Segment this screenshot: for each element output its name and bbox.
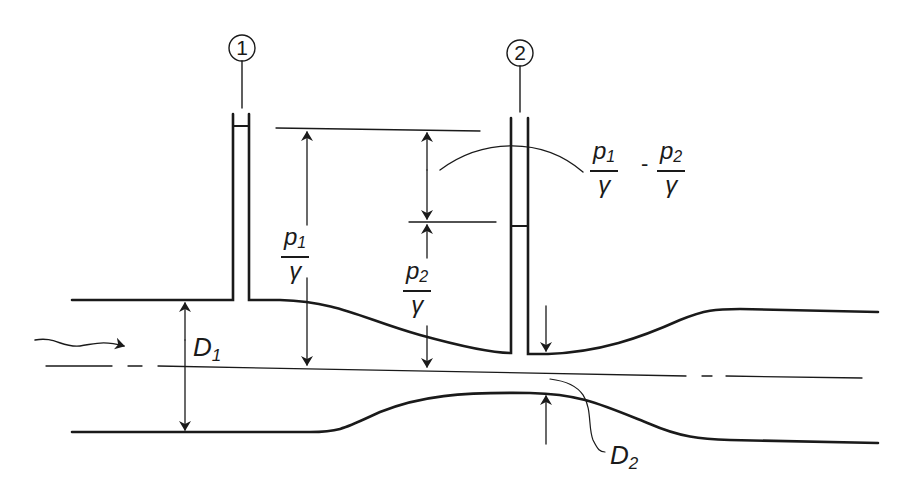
diff-minus: - (641, 151, 648, 177)
pipe-lower-wall (72, 393, 878, 443)
p1-head-label: p1 γ (281, 224, 309, 284)
station-1-label: 1 (229, 35, 255, 61)
d1-label: D1 (193, 332, 221, 366)
diff-term-2: p2 γ (657, 138, 685, 198)
pipe-upper-wall-downstream (528, 118, 878, 354)
diagram-drawing (0, 0, 914, 498)
station-2-label: 2 (507, 40, 533, 66)
flow-arrow (35, 339, 124, 346)
pipe-centerline (46, 366, 862, 378)
d2-label: D2 (610, 440, 638, 474)
venturi-diagram: 1 2 p1 γ p2 γ p1 γ - p2 γ D1 D2 (0, 0, 914, 498)
p2-head-label: p2 γ (403, 258, 431, 318)
diff-term-1: p1 γ (590, 138, 618, 198)
